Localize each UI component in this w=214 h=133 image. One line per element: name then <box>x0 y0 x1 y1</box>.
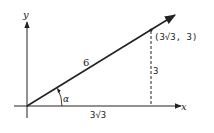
length-label: 6 <box>83 57 89 68</box>
vector-arrow <box>27 15 175 106</box>
y-axis-label: y <box>22 9 29 20</box>
vector-diagram: y x 6 α (3√3, 3) 3 3√3 <box>0 0 214 133</box>
x-axis-label: x <box>181 101 187 112</box>
point-label: (3√3, 3) <box>154 32 197 42</box>
horizontal-leg-label: 3√3 <box>90 110 106 120</box>
angle-arc <box>58 89 63 107</box>
angle-label: α <box>63 94 69 104</box>
vertical-leg-label: 3 <box>153 66 158 76</box>
